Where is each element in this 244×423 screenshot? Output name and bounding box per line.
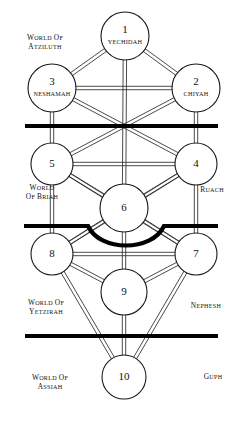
world-label-line2: ATZILUTH [28, 42, 62, 51]
sephiroth-layer: 1YECHIDAH2CHIYAH3NESHAMAH45678910 [28, 12, 220, 399]
path-line [143, 48, 179, 76]
soul-label-ruach: RUACH [200, 185, 224, 194]
tree-of-life-diagram: 1YECHIDAH2CHIYAH3NESHAMAH45678910 WORLD … [0, 0, 244, 423]
world-label-line1: WORLD OF [28, 298, 65, 307]
sephira-number: 6 [121, 201, 127, 213]
sephira-name: NESHAMAH [33, 90, 70, 97]
soul-label-guph: GUPH [204, 372, 223, 381]
sephira-6[interactable]: 6 [100, 184, 148, 232]
path-line [72, 162, 176, 165]
world-label-line2: YETZIRAH [29, 307, 63, 316]
path-line [70, 48, 108, 76]
sephira-number: 10 [119, 370, 131, 382]
sephira-number: 9 [121, 285, 127, 297]
world-label-line2: OF BRIAH [26, 192, 59, 201]
tree-of-life-svg: 1YECHIDAH2CHIYAH3NESHAMAH45678910 WORLD … [0, 0, 244, 423]
world-label-line1: WORLD OF [32, 373, 69, 382]
world-label-yetzirah: WORLD OFYETZIRAH [28, 298, 65, 316]
sephira-10[interactable]: 10 [102, 355, 146, 399]
world-label-line1: WORLD [29, 183, 54, 192]
sephira-number: 4 [193, 157, 199, 169]
soul-label-text: GUPH [204, 372, 223, 381]
world-label-line2: ASSIAH [38, 382, 63, 391]
sephira-number: 8 [49, 247, 55, 259]
sephira-name: YECHIDAH [108, 38, 143, 45]
sephira-9[interactable]: 9 [101, 269, 147, 315]
sephira-5[interactable]: 5 [31, 143, 73, 185]
path-line [122, 231, 125, 270]
path-line [72, 252, 176, 255]
sephira-8[interactable]: 8 [31, 233, 73, 275]
soul-label-text: RUACH [200, 185, 224, 194]
world-label-line1: WORLD OF [27, 33, 64, 42]
sephira-number: 2 [193, 75, 199, 87]
sephira-1[interactable]: 1YECHIDAH [101, 12, 149, 60]
path-line [69, 262, 105, 283]
path-line [75, 86, 173, 89]
sephira-number: 5 [49, 157, 55, 169]
world-label-assiah: WORLD OFASSIAH [32, 373, 69, 391]
world-label-atziluth: WORLD OFATZILUTH [27, 33, 64, 51]
sephira-number: 3 [49, 75, 55, 87]
soul-label-text: NEPHESH [191, 301, 222, 310]
sephira-2[interactable]: 2CHIYAH [172, 64, 220, 112]
path-line [143, 173, 180, 197]
soul-label-nephesh: NEPHESH [191, 301, 222, 310]
sephira-3[interactable]: 3NESHAMAH [28, 64, 76, 112]
path-line [143, 262, 179, 283]
sephira-number: 1 [122, 23, 128, 35]
sephira-number: 7 [193, 247, 199, 259]
sephira-name: CHIYAH [184, 90, 209, 97]
sephira-4[interactable]: 4 [175, 143, 217, 185]
sephira-7[interactable]: 7 [175, 233, 217, 275]
path-line [68, 173, 105, 197]
